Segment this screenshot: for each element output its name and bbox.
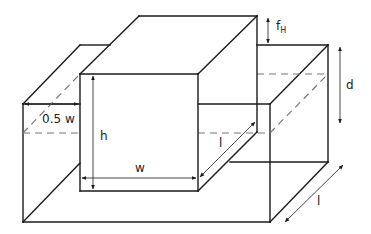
dimension-height: h	[93, 76, 108, 189]
dimension-depth: d	[340, 47, 354, 123]
freeboard-label: fH	[276, 19, 286, 35]
half-width-label: 0.5 w	[42, 112, 75, 126]
dimension-tank-length: l	[285, 165, 343, 222]
depth-label: d	[346, 78, 354, 92]
tank-length-label: l	[317, 194, 320, 208]
floating-body-tank-diagram: 0.5 w h w l l d fH	[0, 0, 371, 234]
height-label: h	[100, 129, 108, 143]
width-label: w	[135, 161, 145, 175]
tank	[23, 45, 328, 222]
dimension-body-length: l	[200, 122, 255, 177]
body-length-label: l	[219, 136, 222, 150]
dimension-width: w	[82, 161, 196, 178]
dimension-freeboard: fH	[268, 18, 286, 43]
freeboard-subscript: H	[280, 26, 286, 35]
